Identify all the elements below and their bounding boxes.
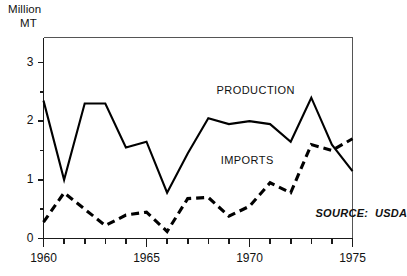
source-note: SOURCE: USDA: [315, 207, 407, 219]
x-tick-label-1970: 1970: [228, 251, 272, 265]
y-tick-label-1: 1: [16, 172, 34, 186]
series-line-imports: [44, 139, 353, 232]
x-tick-label-1960: 1960: [22, 251, 66, 265]
series-label-production: PRODUCTION: [217, 84, 295, 96]
axis-ticks: [38, 63, 353, 247]
plot-frame: [44, 38, 353, 239]
y-tick-label-3: 3: [16, 55, 34, 69]
series-label-imports: IMPORTS: [221, 154, 274, 166]
data-series-group: [44, 98, 353, 232]
y-tick-label-2: 2: [16, 113, 34, 127]
y-tick-label-0: 0: [16, 231, 34, 245]
x-tick-label-1965: 1965: [125, 251, 169, 265]
x-tick-label-1975: 1975: [331, 251, 375, 265]
series-line-production: [44, 98, 353, 193]
